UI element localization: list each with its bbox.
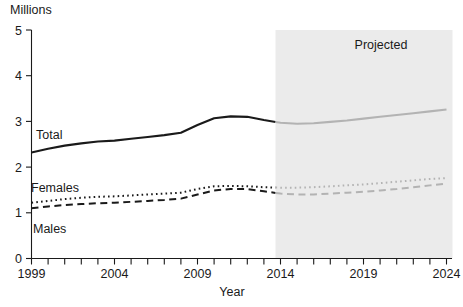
y-tick-label: 5 — [15, 24, 22, 38]
y-tick-label: 2 — [15, 161, 22, 175]
y-tick-label: 3 — [15, 115, 22, 129]
x-tick-label: 2019 — [350, 267, 378, 281]
chart-container: Millions Projected 543210 19992004200920… — [0, 0, 463, 307]
y-tick-label: 4 — [15, 69, 22, 83]
x-tick-label: 2024 — [433, 267, 461, 281]
x-axis-title: Year — [219, 285, 244, 299]
line-chart: Millions Projected 543210 19992004200920… — [0, 0, 463, 307]
projected-region-shading — [276, 30, 453, 259]
y-tick-label: 1 — [15, 206, 22, 220]
x-tick-label: 1999 — [18, 267, 46, 281]
x-tick-label: 2009 — [184, 267, 212, 281]
y-tick-label: 0 — [15, 252, 22, 266]
series-label-females: Females — [31, 181, 79, 195]
projected-annotation-label: Projected — [355, 38, 408, 52]
series-label-total: Total — [36, 128, 62, 142]
y-axis-unit-label: Millions — [10, 3, 52, 17]
x-tick-label: 2004 — [101, 267, 129, 281]
x-tick-label: 2014 — [267, 267, 295, 281]
series-label-males: Males — [33, 222, 66, 236]
